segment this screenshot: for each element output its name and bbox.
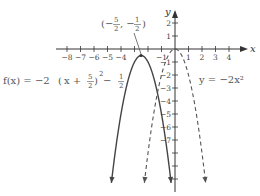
- f-label-prefix: f(x) = −2: [3, 75, 50, 86]
- chart-canvas: x y −8−7−6−5−4−1123421−1−2−3−4−5−6−7 (− …: [0, 0, 260, 196]
- x-tick-label: −5: [102, 53, 113, 62]
- curves: [109, 49, 207, 183]
- y-tick-label: −3: [160, 84, 171, 93]
- x-tick-label: 4: [227, 53, 232, 62]
- x-tick-label: −8: [61, 53, 72, 62]
- y-axis-label: y: [164, 6, 171, 17]
- vertex-point: [139, 54, 142, 57]
- y-tick-label: 2: [166, 19, 171, 28]
- y-tick-label: −6: [160, 123, 171, 132]
- x-tick-label: 2: [200, 53, 205, 62]
- y-tick-label: 1: [166, 32, 171, 41]
- vertex-label-close: ): [142, 18, 146, 29]
- f-label-num: 5: [88, 73, 92, 81]
- f-label-suffix: −: [103, 75, 111, 86]
- y-tick-label: −2: [160, 71, 171, 80]
- x-tick-label: −7: [75, 53, 86, 62]
- vertex-leader-line: [134, 33, 141, 54]
- f-label-inner: x +: [64, 75, 81, 86]
- f-label-paren-close: ): [94, 75, 98, 86]
- vertex-label-mid: , −: [120, 18, 135, 29]
- y-axis-arrow-icon: [172, 10, 178, 18]
- g-equation-label: y = −2x²: [198, 74, 244, 85]
- g-curve-arrow-icon: [202, 177, 207, 183]
- vertex-num2: 1: [135, 16, 139, 24]
- g-curve-arrow-icon: [142, 177, 147, 183]
- x-tick-label: 3: [213, 53, 218, 62]
- x-tick-label: −6: [88, 53, 99, 62]
- f-equation-label: f(x) = −2 ( x + 5 2 ) 2 − 1 2: [3, 70, 124, 90]
- vertex-den1: 2: [114, 25, 118, 33]
- x-tick-label: 1: [186, 53, 191, 62]
- vertex-den2: 2: [135, 25, 139, 33]
- vertex-label-open: (−: [101, 18, 113, 29]
- y-tick-label: −4: [160, 97, 171, 106]
- f-label-paren-open: (: [58, 75, 62, 86]
- x-axis-label: x: [250, 43, 256, 54]
- f-label-den2: 2: [119, 82, 123, 90]
- f-label-den: 2: [88, 82, 92, 90]
- x-tick-label: −4: [115, 53, 126, 62]
- ticks: −8−7−6−5−4−1123421−1−2−3−4−5−6−7: [61, 19, 231, 180]
- f-label-num2: 1: [119, 73, 123, 81]
- vertex-num1: 5: [114, 16, 118, 24]
- x-axis-arrow-icon: [240, 46, 248, 52]
